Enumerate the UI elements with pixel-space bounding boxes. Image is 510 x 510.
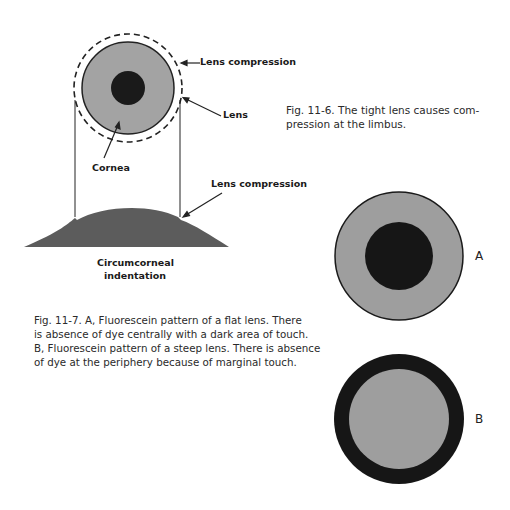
- caption-line: B, Fluorescein pattern of a steep lens. …: [34, 341, 320, 355]
- caption-line: pression at the limbus.: [286, 117, 479, 131]
- central-touch-dark-area: [365, 222, 433, 290]
- arrow-lens: [186, 99, 221, 116]
- arrow-lens-compression-bottom: [186, 193, 222, 215]
- arrowhead-icon: [183, 212, 190, 218]
- caption-line: Fig. 11-7. A, Fluorescein pattern of a f…: [34, 313, 320, 327]
- caption-line: is absence of dye centrally with a dark …: [34, 327, 320, 341]
- pupil-circle: [111, 71, 145, 105]
- caption-line: of dye at the periphery because of margi…: [34, 355, 320, 369]
- fluorescein-pattern-b: [334, 354, 464, 484]
- diagram-canvas: [0, 0, 510, 510]
- arrowhead-icon: [183, 98, 189, 103]
- caption-line: Fig. 11-6. The tight lens causes com-: [286, 103, 479, 117]
- label-circumcorneal: Circumcorneal: [97, 257, 174, 268]
- label-indentation: indentation: [104, 270, 166, 281]
- panel-label-a: A: [475, 249, 483, 263]
- fig-11-7-caption: Fig. 11-7. A, Fluorescein pattern of a f…: [34, 313, 320, 369]
- circumcorneal-indentation-profile: [24, 208, 229, 247]
- steep-lens-inner-circle: [349, 369, 449, 469]
- label-lens-compression-bottom: Lens compression: [211, 178, 307, 189]
- label-lens: Lens: [223, 109, 248, 120]
- label-lens-compression-top: Lens compression: [200, 56, 296, 67]
- eye-top-view: [74, 34, 182, 142]
- arrowhead-icon: [181, 61, 187, 66]
- label-cornea: Cornea: [92, 162, 130, 173]
- fig-11-6-caption: Fig. 11-6. The tight lens causes com- pr…: [286, 103, 479, 131]
- fluorescein-pattern-a: [335, 192, 463, 320]
- panel-label-b: B: [475, 412, 483, 426]
